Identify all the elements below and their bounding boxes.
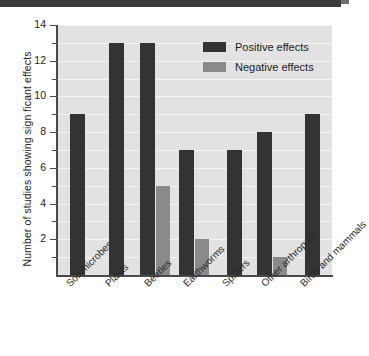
y-axis-minor-tick [52, 221, 57, 222]
bar-positive [109, 43, 124, 275]
y-axis-title: Number of studies showing sign ficant ef… [21, 32, 33, 287]
y-axis-minor-tick [52, 257, 57, 258]
gridline [58, 132, 332, 133]
y-axis-major-tick [50, 132, 57, 133]
y-axis-tick-label: 6 [6, 161, 46, 173]
y-axis-major-tick [50, 239, 57, 240]
bar-positive [257, 132, 272, 275]
scan-edge-artifact [0, 0, 341, 7]
legend-item: Negative effects [203, 58, 314, 75]
gridline [58, 150, 332, 151]
y-axis-major-tick [50, 25, 57, 26]
legend-label: Positive effects [235, 41, 309, 53]
y-axis-minor-tick [52, 186, 57, 187]
y-axis-tick-label: 8 [6, 125, 46, 137]
y-axis-minor-tick [52, 150, 57, 151]
gridline [58, 186, 332, 187]
y-axis-minor-tick [52, 114, 57, 115]
y-axis-tick-label: 2 [6, 232, 46, 244]
y-axis-major-tick [50, 204, 57, 205]
y-axis-tick-label: 10 [6, 89, 46, 101]
y-axis-minor-tick [52, 43, 57, 44]
y-axis-major-tick [50, 168, 57, 169]
y-axis-major-tick [50, 96, 57, 97]
gridline [58, 114, 332, 115]
chart-legend: Positive effectsNegative effects [203, 38, 314, 78]
gridline [58, 168, 332, 169]
legend-label: Negative effects [235, 61, 314, 73]
y-axis-minor-tick [52, 79, 57, 80]
y-axis-tick-label: 14 [6, 18, 46, 30]
legend-item: Positive effects [203, 38, 314, 55]
gridline [58, 96, 332, 97]
y-axis-tick-label: 4 [6, 197, 46, 209]
bar-positive [305, 114, 320, 275]
scan-edge-artifact-taper [341, 0, 349, 4]
legend-swatch [203, 62, 226, 72]
gridline [58, 204, 332, 205]
bar-positive [227, 150, 242, 275]
gridline [58, 25, 332, 26]
y-axis-major-tick [50, 61, 57, 62]
bar-positive [70, 114, 85, 275]
bar-positive [140, 43, 155, 275]
bar-chart-figure: Number of studies showing sign ficant ef… [0, 10, 349, 356]
legend-swatch [203, 42, 226, 52]
bar-positive [179, 150, 194, 275]
y-axis-tick-label: 12 [6, 54, 46, 66]
gridline [58, 79, 332, 80]
gridline [58, 221, 332, 222]
